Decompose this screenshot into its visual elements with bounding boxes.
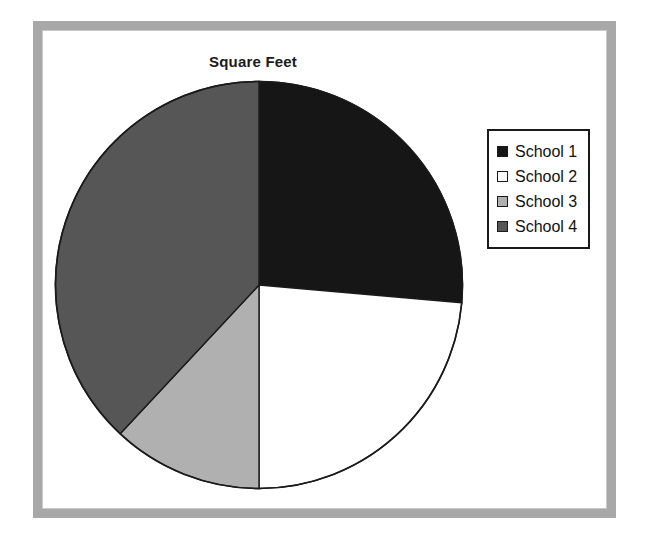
legend-swatch-school-3 [497, 196, 508, 207]
legend-swatch-school-2 [497, 171, 508, 182]
legend-item-school-1[interactable]: School 1 [497, 139, 577, 164]
plot-area: Square Feet School 1 School 2 School 3 [43, 31, 606, 508]
legend-label-school-4: School 4 [515, 219, 577, 235]
legend-item-school-2[interactable]: School 2 [497, 164, 577, 189]
pie-svg [51, 77, 467, 493]
legend-item-school-3[interactable]: School 3 [497, 189, 577, 214]
pie-chart [51, 77, 467, 493]
pie-slice-school-2[interactable] [259, 285, 462, 489]
legend-label-school-1: School 1 [515, 144, 577, 160]
legend-box: School 1 School 2 School 3 School 4 [487, 129, 590, 249]
chart-title: Square Feet [43, 53, 463, 70]
chart-page: Square Feet School 1 School 2 School 3 [0, 0, 648, 539]
pie-slice-school-1[interactable] [259, 82, 463, 303]
pie-slice-group [55, 82, 462, 489]
legend-label-school-3: School 3 [515, 194, 577, 210]
legend-swatch-school-1 [497, 146, 508, 157]
legend-item-school-4[interactable]: School 4 [497, 214, 577, 239]
legend-swatch-school-4 [497, 221, 508, 232]
legend-label-school-2: School 2 [515, 169, 577, 185]
